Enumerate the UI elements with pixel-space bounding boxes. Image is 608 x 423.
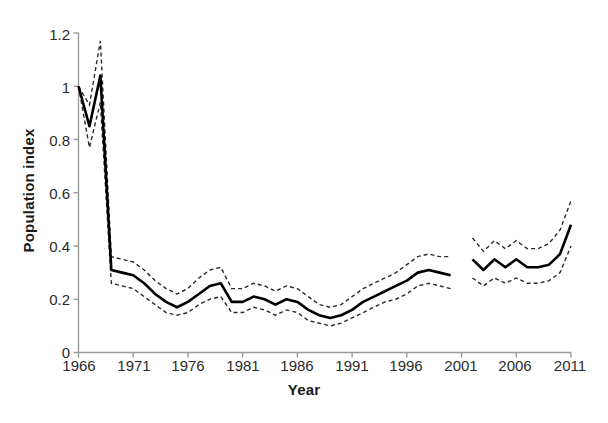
chart-plot-area xyxy=(0,0,608,423)
x-tick-marks xyxy=(79,353,572,358)
population-index-line xyxy=(79,76,572,318)
upper-confidence-line xyxy=(79,41,572,307)
axes xyxy=(74,33,572,358)
population-index-chart: Population index Year 1.2 1 0.8 0.6 0.4 … xyxy=(0,0,608,423)
y-tick-marks xyxy=(74,33,79,353)
